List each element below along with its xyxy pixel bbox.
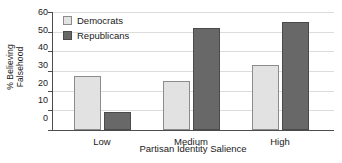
x-axis-line — [52, 130, 334, 131]
y-axis-title-line-2: Falsehood — [15, 46, 25, 87]
y-axis-tick-labels: 60 50 40 30 20 10 0 — [26, 0, 48, 163]
chart-legend: Democrats Republicans — [63, 13, 129, 43]
legend-label-democrats: Democrats — [77, 16, 123, 26]
bar-medium-democrats — [163, 81, 190, 130]
bar-low-republicans — [104, 112, 131, 130]
legend-swatch-democrats-icon — [63, 16, 72, 25]
bar-low-democrats — [74, 76, 101, 130]
y-tick-label-40: 40 — [28, 43, 48, 52]
bar-medium-republicans — [193, 28, 220, 130]
y-tick-label-0: 0 — [28, 114, 48, 123]
y-tick-label-50: 50 — [28, 25, 48, 34]
y-tick-label-60: 60 — [28, 8, 48, 17]
bar-chart-figure: % Believing Falsehood 60 50 40 30 20 10 … — [0, 0, 342, 163]
y-tick-label-10: 10 — [28, 96, 48, 105]
bar-high-republicans — [282, 22, 309, 130]
legend-label-republicans: Republicans — [77, 31, 129, 41]
y-axis-title-line-1: % Believing — [5, 44, 15, 90]
y-axis-line — [52, 12, 53, 130]
bar-high-democrats — [252, 65, 279, 130]
x-axis-title: Partisan Identity Salience — [52, 143, 334, 154]
legend-item-democrats: Democrats — [63, 13, 129, 28]
y-tick-label-30: 30 — [28, 61, 48, 70]
y-tick-label-20: 20 — [28, 78, 48, 87]
y-axis-title-text: % Believing Falsehood — [5, 44, 25, 90]
legend-swatch-republicans-icon — [63, 31, 72, 40]
legend-item-republicans: Republicans — [63, 28, 129, 43]
